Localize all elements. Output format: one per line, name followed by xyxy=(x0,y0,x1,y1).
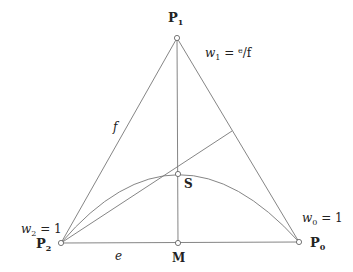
point-p0-marker xyxy=(296,239,301,244)
point-p1-marker xyxy=(174,35,179,40)
weight-w0: w0 = 1 xyxy=(302,211,343,227)
label-m: M xyxy=(172,251,185,265)
label-p1: P1 xyxy=(168,10,183,27)
edge-p2-p1 xyxy=(61,38,177,243)
median-p1-m xyxy=(177,38,178,243)
weight-w1: w1 = e/f xyxy=(205,46,253,62)
weight-w2: w2 = 1 xyxy=(21,222,62,238)
label-p0: P0 xyxy=(310,235,326,252)
segment-label-f: f xyxy=(112,120,120,134)
point-p2-marker xyxy=(58,240,63,245)
conic-diagram: P1 P2 P0 S M w1 = e/f w2 = 1 w0 = 1 f e xyxy=(0,0,353,272)
point-s-marker xyxy=(175,171,180,176)
label-p2: P2 xyxy=(36,236,51,253)
edge-p1-p0 xyxy=(177,38,299,242)
label-s: S xyxy=(184,177,193,191)
conic-arc xyxy=(61,175,299,243)
segment-label-e: e xyxy=(115,249,122,263)
point-m-marker xyxy=(175,240,180,245)
line-p2-s xyxy=(61,131,232,243)
